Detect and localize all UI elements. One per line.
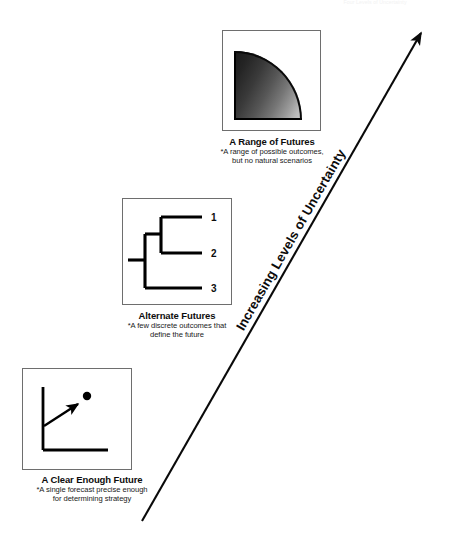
gradient-quarter-disc-icon (234, 51, 302, 120)
branch-label-2: 2 (211, 248, 217, 259)
single-point-forecast-icon (23, 369, 133, 471)
caption-range-of-futures: A Range of Futures *A range of possible … (181, 136, 363, 166)
panel-title: A Clear Enough Future (0, 474, 204, 485)
caption-clear-enough-future: A Clear Enough Future *A single forecast… (0, 474, 204, 504)
panel-subtitle: *A range of possible outcomes, but no na… (181, 148, 363, 166)
uncertainty-levels-figure: Four Levels of Uncertainty Increasing Le… (0, 0, 456, 538)
panel-subtitle: *A few discrete outcomes that define the… (73, 322, 281, 340)
uncertainty-axis-label: Increasing Levels of Uncertainty (233, 147, 349, 333)
branch-label-3: 3 (211, 283, 217, 294)
caption-alternate-futures: Alternate Futures *A few discrete outcom… (73, 310, 281, 340)
panel-title: A Range of Futures (181, 136, 363, 147)
top-note-text: Four Levels of Uncertainty (300, 0, 450, 5)
branching-tree-icon: 1 2 3 (123, 199, 233, 306)
forecast-point (83, 392, 91, 400)
panel-range-of-futures (222, 30, 321, 131)
panel-title: Alternate Futures (73, 310, 281, 321)
panel-alternate-futures: 1 2 3 (122, 198, 232, 305)
panel-subtitle: *A single forecast precise enough for de… (0, 486, 204, 504)
branch-label-1: 1 (211, 212, 217, 223)
panel-clear-enough-future (22, 368, 132, 470)
